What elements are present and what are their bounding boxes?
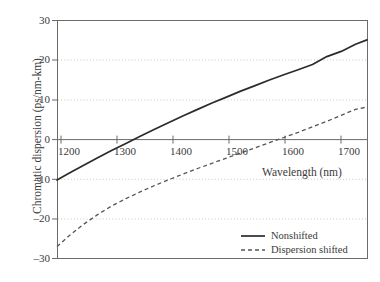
legend-swatch-solid-icon bbox=[240, 231, 266, 241]
x-axis-title: Wavelength (nm) bbox=[262, 166, 342, 178]
legend-item-nonshifted: Nonshifted bbox=[240, 229, 348, 243]
legend-swatch-dashed-icon bbox=[240, 245, 266, 255]
x-tick-label: 1300 bbox=[114, 146, 136, 157]
x-tick-label: 1200 bbox=[58, 146, 80, 157]
legend-label-dispersion-shifted: Dispersion shifted bbox=[271, 245, 348, 256]
chart-legend: Nonshifted Dispersion shifted bbox=[240, 229, 348, 257]
legend-item-dispersion-shifted: Dispersion shifted bbox=[240, 243, 348, 257]
y-axis-title: Chromatic dispersion (ps/nm-km) bbox=[31, 26, 43, 246]
series-curve bbox=[57, 40, 367, 180]
x-tick-label: 1600 bbox=[282, 146, 304, 157]
y-tick-label: 30 bbox=[22, 15, 50, 26]
y-tick-marks bbox=[52, 21, 57, 259]
x-tick-label: 1700 bbox=[338, 146, 360, 157]
legend-label-nonshifted: Nonshifted bbox=[271, 231, 318, 242]
y-tick-label: –30 bbox=[22, 253, 50, 264]
x-tick-label: 1500 bbox=[226, 146, 248, 157]
chart-page: 30 20 10 0 –10 –20 –30 1200 1300 1400 15… bbox=[0, 0, 380, 282]
x-tick-label: 1400 bbox=[170, 146, 192, 157]
